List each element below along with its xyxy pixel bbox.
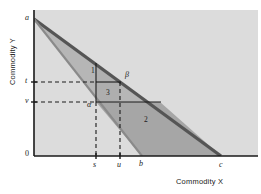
region-label-1: 1 (91, 66, 95, 75)
y-tick-label-t: t (25, 76, 27, 85)
x-tick-label-b: b (139, 159, 143, 168)
x-axis-title: Commodity X (176, 177, 223, 186)
x-tick-label-u: u (117, 160, 121, 169)
y-tick-label-v: v (25, 96, 29, 105)
y-tick-label-a: a (25, 13, 29, 22)
region-label-3: 3 (106, 88, 110, 97)
point-label-alpha: α (87, 100, 91, 109)
region-label-2: 2 (144, 115, 148, 124)
x-tick-label-s: s (93, 160, 96, 169)
y-axis-title: Commodity Y (8, 33, 17, 91)
y-tick-label-0: 0 (25, 149, 29, 158)
x-tick-label-c: c (219, 160, 223, 169)
point-label-beta: β (125, 70, 129, 79)
